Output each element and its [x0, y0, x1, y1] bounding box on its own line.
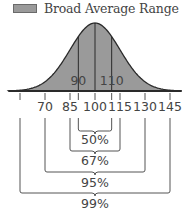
- range-label-50: 50%: [81, 132, 109, 147]
- range-label-95: 95%: [81, 175, 109, 190]
- range-label-99: 99%: [81, 196, 109, 211]
- tick-label-70: 70: [37, 99, 53, 114]
- tick-label-100: 100: [83, 99, 107, 114]
- range-label-67: 67%: [81, 153, 109, 168]
- tick-label-130: 130: [133, 99, 157, 114]
- inner-label-90: 90: [70, 73, 86, 88]
- tick-label-85: 85: [62, 99, 78, 114]
- bell-curve-chart: 90110708510011513014550%67%95%99%: [0, 0, 189, 216]
- inner-label-110: 110: [100, 73, 124, 88]
- tick-label-145: 145: [158, 99, 182, 114]
- tick-label-115: 115: [108, 99, 132, 114]
